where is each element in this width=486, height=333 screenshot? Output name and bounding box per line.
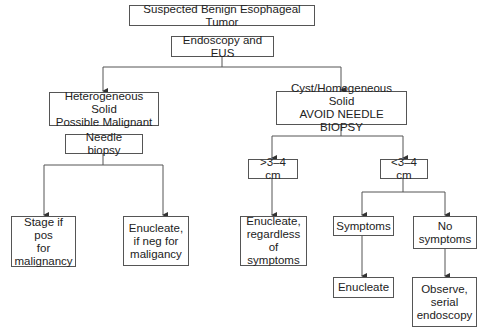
node-endoscopy-eus: Endoscopy and EUS xyxy=(171,36,274,57)
node-stage-if-positive: Stage if pos for malignancy xyxy=(11,216,76,267)
node-enucleate-regardless: Enucleate, regardless of symptoms xyxy=(240,216,307,266)
node-label: Observe, serial endoscopy xyxy=(417,283,473,322)
node-no-symptoms: No symptoms xyxy=(413,216,477,249)
node-symptoms: Symptoms xyxy=(333,216,394,236)
node-label: Symptoms xyxy=(336,220,390,233)
node-label: Suspected Benign Esophageal Tumor xyxy=(133,3,311,29)
node-label: >3–4 cm xyxy=(252,156,294,182)
node-suspected-tumor: Suspected Benign Esophageal Tumor xyxy=(129,5,315,26)
node-less-3-4cm: <3–4 cm xyxy=(380,159,428,179)
node-label: Heterogeneous Solid Possible Malignant xyxy=(53,90,155,129)
node-label: Needle biopsy xyxy=(69,131,139,157)
node-greater-3-4cm: >3–4 cm xyxy=(248,159,298,179)
node-label: <3–4 cm xyxy=(384,156,424,182)
node-cyst-homogeneous: Cyst/Homogeneous Solid AVOID NEEDLE BIOP… xyxy=(276,91,407,125)
node-enucleate: Enucleate xyxy=(333,277,394,298)
node-observe-serial-endoscopy: Observe, serial endoscopy xyxy=(412,277,477,327)
node-label: Cyst/Homogeneous Solid AVOID NEEDLE BIOP… xyxy=(280,82,403,134)
node-label: No symptoms xyxy=(419,220,471,246)
node-label: Stage if pos for malignancy xyxy=(14,216,72,268)
node-enucleate-if-negative: Enucleate, if neg for maligancy xyxy=(123,216,189,266)
node-needle-biopsy: Needle biopsy xyxy=(65,134,143,154)
node-heterogeneous-solid: Heterogeneous Solid Possible Malignant xyxy=(49,92,159,126)
node-label: Enucleate, if neg for maligancy xyxy=(129,222,183,261)
node-label: Endoscopy and EUS xyxy=(175,34,270,60)
node-label: Enucleate xyxy=(338,281,389,294)
node-label: Enucleate, regardless of symptoms xyxy=(244,215,303,267)
